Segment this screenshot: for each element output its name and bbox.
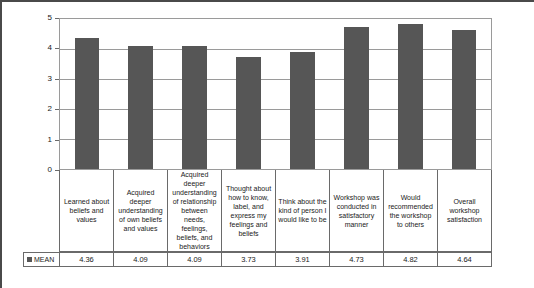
bar[interactable] [182,46,207,169]
mean-value-cell: 4.36 [60,253,114,266]
mean-values-group: 4.364.094.093.733.914.734.824.64 [60,253,491,266]
mean-value-cell: 4.09 [168,253,222,266]
y-tick-label-3: 3 [48,75,52,83]
y-tick-label-4: 4 [48,44,52,52]
bar-slot [329,19,383,169]
y-axis: 5 4 3 2 1 0 [18,18,59,170]
bar-slot [437,19,491,169]
chart-figure: 5 4 3 2 1 0 Learned about beliefs and va… [0,0,534,288]
bar[interactable] [236,57,261,169]
bar-slot [276,19,330,169]
legend-mean-label: MEAN [34,256,54,263]
mean-value-cell: 4.09 [114,253,168,266]
legend-mean: MEAN [24,253,60,266]
bar[interactable] [128,46,153,169]
bar-slot [168,19,222,169]
legend-swatch-icon [27,257,32,262]
category-label-cell: Think about the kind of person I would l… [276,170,330,251]
mean-value-cell: 4.64 [438,253,491,266]
category-label-table: Learned about beliefs and valuesAcquired… [59,170,492,252]
bar-group [60,19,491,169]
category-label-cell: Learned about beliefs and values [60,170,114,251]
mean-value-cell: 3.91 [276,253,330,266]
mean-value-row: MEAN 4.364.094.093.733.914.734.824.64 [23,252,492,267]
bar[interactable] [75,38,100,169]
mean-value-cell: 4.82 [384,253,438,266]
plot-area [59,18,492,170]
bar-slot [222,19,276,169]
category-label-cell: Acquired deeper understanding of own bel… [114,170,168,251]
bar[interactable] [452,30,477,169]
category-label-cell: Would recommended the workshop to others [384,170,438,251]
category-label-cell: Acquired deeper understanding of relatio… [168,170,222,251]
y-tick-label-0: 0 [48,166,52,174]
bar-slot [60,19,114,169]
bar[interactable] [398,24,423,169]
category-label-cell: Overall workshop satisfaction [438,170,491,251]
y-tick-label-2: 2 [48,105,52,113]
mean-value-cell: 3.73 [222,253,276,266]
bar-slot [383,19,437,169]
mean-value-cell: 4.73 [330,253,384,266]
bar[interactable] [290,52,315,169]
y-tick-label-5: 5 [48,14,52,22]
bar-slot [114,19,168,169]
bar[interactable] [344,27,369,169]
y-tick-label-1: 1 [48,136,52,144]
category-label-cell: Thought about how to know, label, and ex… [222,170,276,251]
category-label-cell: Workshop was conducted in satisfactory m… [330,170,384,251]
